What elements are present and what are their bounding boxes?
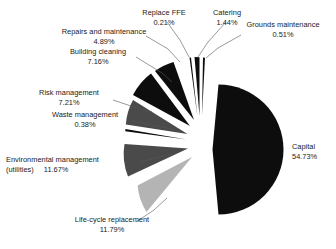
label-grounds-maintenance-name: Grounds maintenance — [233, 20, 333, 30]
label-grounds-maintenance-value: 0.51% — [233, 30, 333, 40]
label-building-cleaning: Building cleaning 7.16% — [48, 47, 148, 66]
label-repairs-name: Repairs and maintenance — [44, 27, 164, 37]
label-environmental-management-sub: (utilities) — [6, 165, 34, 174]
label-risk-management-value: 7.21% — [24, 98, 114, 108]
label-environmental-management-value: 11.67% — [36, 165, 69, 174]
label-capital: Capital 54.73% — [292, 142, 336, 161]
label-life-cycle-replacement: Life-cycle replacement 11.79% — [52, 215, 172, 234]
label-building-cleaning-name: Building cleaning — [48, 47, 148, 57]
label-risk-management: Risk management 7.21% — [24, 88, 114, 107]
label-waste-management: Waste management 0.38% — [37, 110, 133, 129]
label-grounds-maintenance: Grounds maintenance 0.51% — [233, 20, 333, 39]
label-capital-name: Capital — [292, 142, 336, 152]
label-catering-name: Catering — [203, 8, 251, 18]
pie-slices — [124, 57, 284, 215]
label-repairs-and-maintenance: Repairs and maintenance 4.89% — [44, 27, 164, 46]
label-building-cleaning-value: 7.16% — [48, 57, 148, 67]
label-replace-ffe-name: Replace FFE — [127, 8, 201, 18]
label-life-cycle-replacement-name: Life-cycle replacement — [52, 215, 172, 225]
label-replace-ffe-value: 0.21% — [127, 18, 201, 28]
label-life-cycle-replacement-value: 11.79% — [52, 225, 172, 235]
slice-catering — [195, 57, 200, 116]
label-waste-management-name: Waste management — [37, 110, 133, 120]
leader-line-catering — [198, 22, 226, 57]
label-risk-management-name: Risk management — [24, 88, 114, 98]
label-capital-value: 54.73% — [292, 152, 336, 162]
label-repairs-value: 4.89% — [44, 37, 164, 47]
slice-capital — [213, 85, 284, 215]
label-replace-ffe: Replace FFE 0.21% — [127, 8, 201, 27]
slice-grounds — [202, 58, 205, 116]
pie-chart: Repairs and maintenance 4.89% Building c… — [0, 0, 336, 249]
label-environmental-management-name: Environmental management — [6, 155, 136, 165]
label-waste-management-value: 0.38% — [37, 120, 133, 130]
label-environmental-management: Environmental management (utilities) 11.… — [6, 155, 136, 174]
